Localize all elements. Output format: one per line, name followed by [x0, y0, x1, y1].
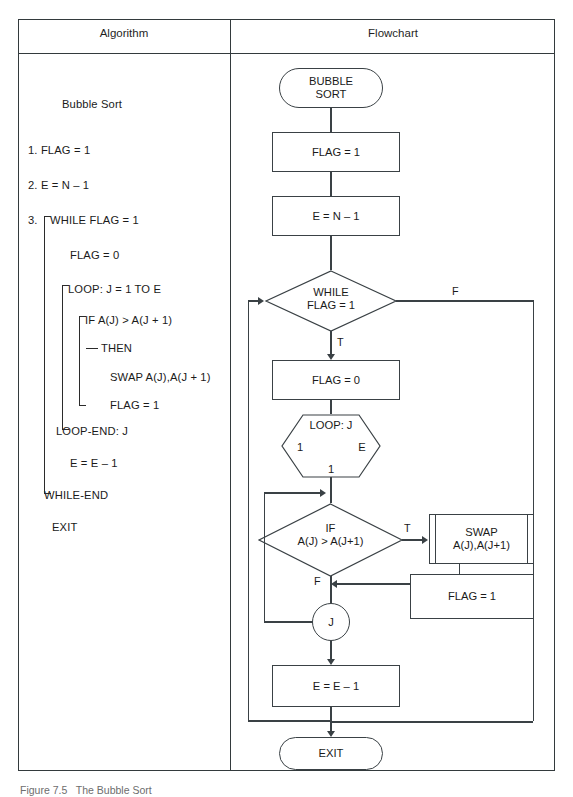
edge-swap-to-flag-set: [459, 564, 460, 574]
algorithm-loop-statement: LOOP: J = 1 TO E: [68, 283, 161, 295]
header-separator-rule: [18, 53, 555, 54]
flowchart-node-loop-start-to: E: [353, 441, 371, 454]
flowchart-node-exit-label: EXIT: [319, 747, 344, 760]
edge-outer-loopback-horizontal-bottom: [248, 720, 331, 721]
edge-label-while-true: T: [337, 336, 344, 348]
edge-flag-init-to-e-init: [330, 172, 331, 196]
edge-while-false-horizontal: [396, 300, 534, 301]
algorithm-while-end: WHILE-END: [44, 489, 108, 501]
edge-if-false-vertical: [330, 576, 331, 603]
arrowhead-flag-set-return: [331, 580, 337, 588]
arrowhead-inner-loopback: [320, 489, 326, 497]
flowchart-node-e-init-label: E = N – 1: [313, 210, 360, 223]
edge-if-true-horizontal: [402, 539, 424, 540]
arrowhead-if-true: [422, 536, 428, 544]
algorithm-title: Bubble Sort: [62, 98, 122, 110]
flowchart-node-flag-init-label: FLAG = 1: [312, 146, 360, 159]
edge-flag-reset-to-loop: [330, 400, 331, 414]
algorithm-flag-reset: FLAG = 0: [70, 249, 119, 261]
algorithm-while-statement: WHILE FLAG = 1: [50, 214, 139, 226]
algorithm-if-statement: IF A(J) > A(J + 1): [85, 314, 172, 326]
edge-flag-set-return-horizontal: [337, 583, 410, 584]
flowchart-node-if-test-label: IF A(J) > A(J+1): [258, 522, 403, 548]
flowchart-node-e-dec: E = E – 1: [272, 665, 400, 707]
flowchart-node-flag-set-label: FLAG = 1: [448, 590, 496, 603]
edge-label-while-false: F: [452, 285, 459, 297]
figure-container: Algorithm Flowchart Bubble Sort 1. FLAG …: [0, 0, 573, 797]
brace-while-block: [44, 216, 51, 494]
edge-inner-loopback-horizontal-bottom: [264, 621, 313, 622]
flowchart-node-e-init: E = N – 1: [272, 196, 400, 236]
column-header-flowchart: Flowchart: [231, 27, 555, 39]
flowchart-node-loop-start-label: LOOP: J: [281, 419, 381, 432]
flowchart-node-e-dec-label: E = E – 1: [313, 680, 359, 693]
flowchart-node-loop-end: J: [312, 603, 350, 641]
flowchart-node-flag-set: FLAG = 1: [410, 574, 534, 619]
flowchart-node-flag-reset: FLAG = 0: [272, 360, 400, 400]
column-divider: [230, 19, 231, 771]
figure-caption: Figure 7.5 The Bubble Sort: [20, 784, 152, 796]
algorithm-then-statement: THEN: [101, 342, 132, 354]
edge-exit-merge-horizontal: [330, 721, 533, 722]
edge-label-if-true: T: [404, 522, 411, 534]
algorithm-e-decrement: E = E – 1: [70, 457, 118, 469]
brace-if-block: [79, 316, 86, 406]
flowchart-node-swap-label: SWAP A(J),A(J+1): [453, 526, 510, 552]
edge-loop-to-if: [330, 477, 331, 503]
algorithm-step-1: 1. FLAG = 1: [28, 144, 90, 156]
flowchart-node-exit: EXIT: [279, 737, 383, 770]
flowchart-node-loop-start-step: 1: [322, 463, 340, 476]
flowchart-node-flag-reset-label: FLAG = 0: [312, 374, 360, 387]
algorithm-flag-set: FLAG = 1: [110, 399, 159, 411]
algorithm-swap-statement: SWAP A(J),A(J + 1): [110, 371, 211, 383]
algorithm-exit: EXIT: [52, 521, 77, 533]
edge-while-false-vertical: [533, 300, 534, 721]
algorithm-step-2: 2. E = N – 1: [28, 179, 89, 191]
flowchart-node-swap: SWAP A(J),A(J+1): [429, 514, 534, 564]
edge-inner-loopback-horizontal-top: [264, 492, 322, 493]
flowchart-node-start: BUBBLE SORT: [279, 68, 383, 108]
arrowhead-outer-loopback: [258, 297, 264, 305]
flowchart-node-while-test-label: WHILE FLAG = 1: [265, 286, 397, 312]
column-header-algorithm: Algorithm: [18, 27, 230, 39]
algorithm-step-3-number: 3.: [28, 214, 38, 226]
edge-label-if-false: F: [314, 575, 321, 587]
edge-outer-loopback-vertical: [248, 301, 249, 721]
edge-start-to-flag-init: [330, 108, 331, 132]
edge-inner-loopback-vertical: [264, 493, 265, 622]
brace-loop-block: [62, 285, 69, 430]
flowchart-node-loop-end-label: J: [328, 616, 334, 629]
brace-then-tick: [86, 348, 98, 349]
flowchart-node-flag-init: FLAG = 1: [272, 132, 400, 172]
edge-while-true-vertical: [330, 331, 331, 356]
flowchart-node-loop-start-from: 1: [291, 441, 309, 454]
flowchart-node-start-label: BUBBLE SORT: [309, 75, 353, 101]
edge-e-init-to-while: [330, 236, 331, 270]
